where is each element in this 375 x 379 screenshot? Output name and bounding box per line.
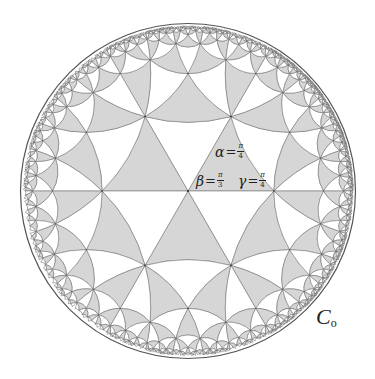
triangle-tile xyxy=(28,152,31,156)
triangle-tile xyxy=(351,164,352,165)
equals-sign: = xyxy=(205,174,216,187)
vertex-dot xyxy=(52,191,53,192)
vertex-dot xyxy=(86,132,87,133)
triangle-tile xyxy=(342,130,343,131)
triangle-tile xyxy=(344,137,345,138)
triangle-tile xyxy=(161,28,162,29)
triangle-tile xyxy=(346,233,347,235)
vertex-dot xyxy=(225,59,226,60)
vertex-dot xyxy=(309,275,310,276)
vertex-dot xyxy=(255,73,256,74)
triangle-tile xyxy=(220,29,222,30)
triangle-tile xyxy=(34,246,36,250)
triangle-tile xyxy=(25,210,29,215)
vertex-dot xyxy=(277,67,278,68)
triangle-tile xyxy=(343,244,344,246)
triangle-tile xyxy=(154,29,156,30)
vertex-dot xyxy=(86,249,87,250)
triangle-tile xyxy=(279,327,281,328)
fraction-numerator: π xyxy=(237,143,244,152)
vertex-dot xyxy=(333,241,334,242)
triangle-tile xyxy=(26,215,29,221)
triangle-tile xyxy=(190,354,193,356)
vertex-dot xyxy=(230,265,232,267)
triangle-tile xyxy=(351,198,352,201)
triangle-tile xyxy=(342,248,343,250)
triangle-tile xyxy=(44,264,47,270)
vertex-dot xyxy=(125,51,126,52)
triangle-tile xyxy=(131,344,134,346)
triangle-tile xyxy=(167,353,170,355)
triangle-tile xyxy=(311,81,312,82)
vertex-dot xyxy=(36,175,37,176)
triangle-tile xyxy=(163,27,165,28)
triangle-tile xyxy=(350,212,351,214)
triangle-tile xyxy=(149,30,151,31)
vertex-dot xyxy=(187,73,188,74)
vertex-dot xyxy=(187,308,188,309)
triangle-tile xyxy=(329,105,330,106)
triangle-tile xyxy=(186,353,191,355)
triangle-tile xyxy=(304,306,306,307)
triangle-tile xyxy=(111,45,113,46)
vertex-dot xyxy=(200,338,201,339)
triangle-tile xyxy=(351,172,352,174)
vertex-dot xyxy=(101,190,103,192)
triangle-tile xyxy=(123,39,125,40)
triangle-tile xyxy=(227,349,230,351)
vertex-dot xyxy=(289,132,290,133)
fraction-denominator: 4 xyxy=(238,152,242,160)
vertex-dot xyxy=(340,206,341,207)
vertex-dot xyxy=(304,291,305,292)
triangle-tile xyxy=(340,126,341,127)
triangle-tile xyxy=(47,105,49,108)
fraction-denominator: 3 xyxy=(218,181,222,189)
triangle-tile xyxy=(100,51,104,53)
vertex-dot xyxy=(255,308,256,309)
triangle-tile xyxy=(333,112,334,113)
equals-sign: = xyxy=(225,145,236,158)
triangle-tile xyxy=(339,254,340,256)
vertex-dot xyxy=(273,190,275,192)
vertex-dot xyxy=(98,315,99,316)
vertex-dot xyxy=(217,40,218,41)
triangle-tile xyxy=(345,239,346,241)
circle-subscript: o xyxy=(331,316,337,330)
vertex-dot xyxy=(125,330,126,331)
triangle-tile xyxy=(203,353,206,355)
triangle-tile xyxy=(197,26,200,28)
triangle-tile xyxy=(346,230,348,233)
fraction-denominator: 4 xyxy=(260,181,264,189)
vertex-dot xyxy=(320,223,321,224)
vertex-dot xyxy=(98,67,99,68)
vertex-dot xyxy=(250,51,251,52)
triangle-tile xyxy=(211,27,213,28)
triangle-tile xyxy=(294,65,295,66)
triangle-tile xyxy=(225,30,227,31)
triangle-tile xyxy=(209,27,211,28)
vertex-dot xyxy=(320,158,321,159)
triangle-tile xyxy=(269,332,271,334)
triangle-tile xyxy=(88,59,91,61)
triangle-tile xyxy=(171,26,173,27)
triangle-tile xyxy=(346,144,347,145)
vertex-dot xyxy=(71,291,72,292)
triangle-tile xyxy=(206,353,209,355)
vertex-dot xyxy=(282,92,283,93)
vertex-dot xyxy=(71,90,72,91)
triangle-tile xyxy=(257,337,261,339)
vertex-dot xyxy=(54,254,55,255)
vertex-dot xyxy=(230,116,232,118)
triangle-tile xyxy=(176,26,179,28)
boundary-circle-label: Co xyxy=(316,306,337,329)
triangle-tile xyxy=(165,27,167,28)
circle-symbol: C xyxy=(316,304,331,329)
vertex-dot xyxy=(144,265,146,267)
triangle-tile xyxy=(151,30,153,31)
fraction-numerator: π xyxy=(217,172,224,181)
triangle-tile xyxy=(352,177,353,178)
triangle-tile xyxy=(350,218,351,220)
vertex-dot xyxy=(66,106,67,107)
gamma-angle-label: γ = π 4 xyxy=(238,172,266,189)
equals-sign: = xyxy=(247,174,258,187)
